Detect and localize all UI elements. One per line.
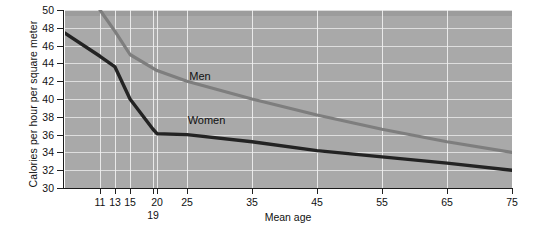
y-tick-label-50: 50 bbox=[30, 4, 54, 16]
x-tick-label-13: 13 bbox=[109, 196, 121, 208]
x-tick-25 bbox=[187, 189, 188, 194]
y-tick-30 bbox=[57, 188, 63, 189]
y-tick-label-40: 40 bbox=[30, 93, 54, 105]
y-tick-36 bbox=[57, 135, 63, 136]
line-series-women bbox=[65, 33, 512, 170]
x-tick-13 bbox=[115, 189, 116, 194]
y-tick-label-38: 38 bbox=[30, 111, 54, 123]
x-tick-label-20: 20 bbox=[151, 196, 163, 208]
x-tick-label-11: 11 bbox=[95, 196, 106, 208]
y-tick-label-42: 42 bbox=[30, 75, 54, 87]
x-tick-label-19: 19 bbox=[147, 209, 159, 221]
plot-area bbox=[65, 10, 512, 188]
y-tick-40 bbox=[57, 99, 63, 100]
y-tick-38 bbox=[57, 117, 63, 118]
x-tick-15 bbox=[130, 189, 131, 194]
x-tick-55 bbox=[382, 189, 383, 194]
chart-figure: Calories per hour per square meter 30323… bbox=[0, 0, 545, 237]
y-tick-label-48: 48 bbox=[30, 22, 54, 34]
y-tick-label-32: 32 bbox=[30, 164, 54, 176]
x-tick-19 bbox=[153, 189, 154, 194]
y-tick-label-44: 44 bbox=[30, 57, 54, 69]
series-label-women: Women bbox=[188, 114, 226, 126]
y-tick-42 bbox=[57, 81, 63, 82]
x-tick-label-65: 65 bbox=[441, 196, 453, 208]
x-tick-45 bbox=[317, 189, 318, 194]
x-axis-title: Mean age bbox=[265, 211, 312, 223]
line-series-men bbox=[100, 10, 512, 152]
y-tick-label-46: 46 bbox=[30, 40, 54, 52]
x-tick-label-55: 55 bbox=[376, 196, 388, 208]
x-tick-label-35: 35 bbox=[246, 196, 258, 208]
series-label-men: Men bbox=[189, 70, 210, 82]
y-tick-label-36: 36 bbox=[30, 129, 54, 141]
x-tick-20 bbox=[157, 189, 158, 194]
y-tick-label-34: 34 bbox=[30, 146, 54, 158]
y-tick-48 bbox=[57, 28, 63, 29]
y-tick-label-30: 30 bbox=[30, 182, 54, 194]
x-tick-65 bbox=[447, 189, 448, 194]
y-tick-34 bbox=[57, 152, 63, 153]
x-tick-11 bbox=[100, 189, 101, 194]
x-tick-label-75: 75 bbox=[506, 196, 518, 208]
x-tick-35 bbox=[252, 189, 253, 194]
x-tick-label-15: 15 bbox=[124, 196, 136, 208]
x-tick-75 bbox=[512, 189, 513, 194]
x-tick-label-45: 45 bbox=[311, 196, 323, 208]
x-tick-label-25: 25 bbox=[181, 196, 193, 208]
y-tick-46 bbox=[57, 46, 63, 47]
y-tick-44 bbox=[57, 63, 63, 64]
series-curves bbox=[65, 10, 512, 188]
y-tick-50 bbox=[57, 10, 63, 11]
y-tick-32 bbox=[57, 170, 63, 171]
